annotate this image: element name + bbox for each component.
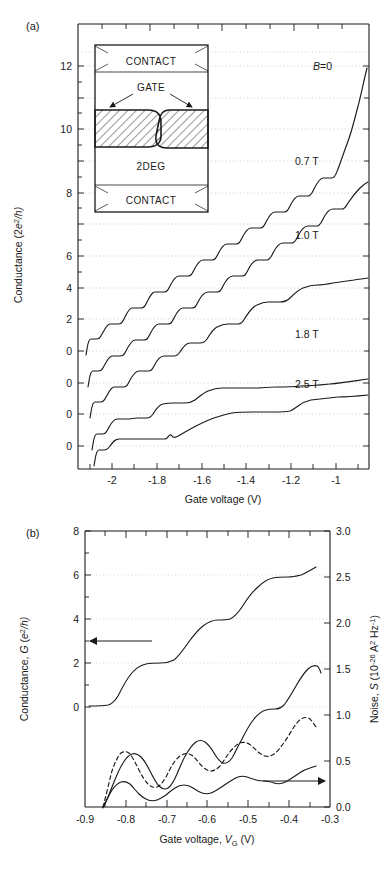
panel-b-rtitle-c: A — [368, 645, 380, 654]
panel-b-left-ticklabels: 8 6 4 2 0 — [73, 525, 79, 713]
panel-b-xtitle-b: (V) — [238, 833, 255, 845]
panel-b-rtick-1-0: 1.0 — [336, 709, 351, 721]
panel-a-ytick-8: 8 — [66, 187, 72, 199]
panel-a-ytick-0b: 0 — [66, 377, 72, 389]
panel-b-ytick-6: 6 — [73, 569, 79, 581]
panel-a-ytick-6: 6 — [66, 250, 72, 262]
panel-a-x-ticklabels: -2 -1.8 -1.6 -1.4 -1.2 -1 — [107, 474, 340, 486]
panel-b-xtick-3: -0.6 — [198, 813, 216, 825]
svg-text:Noise, S (10-26 A2 Hz-1): Noise, S (10-26 A2 Hz-1) — [368, 615, 381, 723]
panel-b-xtick-5: -0.4 — [280, 813, 298, 825]
panel-b-xtick-4: -0.5 — [239, 813, 257, 825]
curve-b-2-5t — [94, 395, 368, 466]
panel-b-rtitle-e: ) — [368, 615, 380, 619]
panel-a-ytick-4: 4 — [66, 282, 72, 294]
panel-b-rtick-1-5: 1.5 — [336, 663, 351, 675]
svg-text:Conductance, G (e2/h): Conductance, G (e2/h) — [18, 617, 31, 722]
curve-label-1-0t: 1.0 T — [295, 229, 319, 241]
panel-b-rtick-0-5: 0.5 — [336, 755, 351, 767]
panel-b-xtick-0: -0.9 — [76, 813, 94, 825]
panel-b-top-ticks — [105, 531, 310, 538]
panel-b-ytick-0: 0 — [73, 701, 79, 713]
svg-text:Conductance (2e2/h): Conductance (2e2/h) — [12, 207, 25, 303]
panel-b-right-ticklabels: 3.0 2.5 2.0 1.5 1.0 0.5 0.0 — [336, 525, 351, 813]
panel-a-ytick-2: 2 — [66, 313, 72, 325]
inset-gate-label: GATE — [137, 82, 165, 93]
panel-a-xtick-3: -1.4 — [237, 474, 255, 486]
panel-b-left-axis-title: Conductance, G (e2/h) — [18, 617, 31, 722]
panel-a-top-ticks — [102, 24, 342, 31]
panel-a-ytick-0d: 0 — [66, 440, 72, 452]
panel-a-chart: (a) — [0, 0, 389, 510]
panel-b-rtick-2-0: 2.0 — [336, 617, 351, 629]
panel-a-curve-labels: B=0 0.7 T 1.0 T 1.8 T 2.5 T — [295, 60, 332, 390]
curve-label-0-7t: 0.7 T — [295, 155, 319, 167]
panel-b-letter: (b) — [26, 527, 39, 539]
panel-a-xtick-5: -1 — [331, 474, 340, 486]
inset-2deg-label: 2DEG — [137, 161, 166, 172]
panel-a-y-ticklabels: 12 10 8 6 4 2 0 0 0 0 — [60, 60, 72, 452]
curve-conductance-lower — [103, 666, 321, 808]
panel-b-rtitle-a: Noise, — [368, 690, 380, 723]
panel-b-rtitle-d: Hz — [368, 625, 380, 641]
panel-b-rtitle-b: (10 — [368, 665, 380, 683]
curve-label-2-5t: 2.5 T — [295, 378, 319, 390]
panel-b-xtitle-a: Gate voltage, — [159, 833, 224, 845]
panel-a-letter: (a) — [26, 20, 39, 32]
panel-b-xtick-1: -0.8 — [117, 813, 135, 825]
panel-b-rtitle-sup3: -1 — [368, 618, 377, 625]
curve-conductance-upper — [89, 567, 316, 706]
panel-a-xtick-1: -1.8 — [148, 474, 166, 486]
panel-b-ytick-4: 4 — [73, 613, 79, 625]
curve-label-b0: B=0 — [313, 60, 332, 72]
panel-a-right-ticks — [363, 66, 369, 446]
panel-b-rtick-3-0: 3.0 — [336, 525, 351, 537]
panel-b-curves — [89, 567, 321, 808]
panel-a-left-ticks — [78, 66, 84, 446]
inset-top-contact-label: CONTACT — [126, 56, 176, 67]
panel-b-ltitle-a: Conductance, — [18, 654, 30, 722]
panel-a-ytitle-tail: /h) — [12, 207, 24, 220]
panel-a-xtick-4: -1.2 — [282, 474, 300, 486]
panel-b-rtick-0-0: 0.0 — [336, 801, 351, 813]
panel-b-bottom-ticks — [105, 800, 310, 807]
panel-b-right-axis-title: Noise, S (10-26 A2 Hz-1) — [368, 615, 381, 723]
inset-bottom-contact-label: CONTACT — [126, 195, 176, 206]
panel-b-chart: (b) — [0, 510, 389, 874]
panel-b-rtitle-s: S — [368, 683, 380, 690]
curve-noise-lower-solid — [103, 766, 316, 807]
panel-a-bottom-ticks — [90, 463, 358, 469]
curve-label-1-8t: 1.8 T — [295, 328, 319, 340]
panel-a-ytick-10: 10 — [60, 123, 72, 135]
panel-b-ytick-8: 8 — [73, 525, 79, 537]
panel-a-ytitle-main: Conductance (2 — [12, 229, 24, 303]
panel-b-rtick-2-5: 2.5 — [336, 571, 351, 583]
panel-b-xtick-2: -0.7 — [158, 813, 176, 825]
panel-a-y-axis-title: Conductance (2e2/h) — [12, 207, 25, 303]
panel-b-rtitle-sup1: -26 — [368, 654, 377, 665]
panel-b-right-ticks — [324, 531, 330, 807]
panel-b-x-ticklabels: -0.9 -0.8 -0.7 -0.6 -0.5 -0.4 -0.3 — [76, 813, 339, 825]
panel-a-x-axis-title: Gate voltage (V) — [185, 493, 261, 505]
panel-b-ltitle-c: /h) — [18, 617, 30, 630]
panel-a-ytick-0c: 0 — [66, 408, 72, 420]
panel-b-ytick-2: 2 — [73, 657, 79, 669]
inset-device-diagram: CONTACT GATE 2DEG CONTACT — [95, 45, 208, 212]
curve-b-1-0t — [90, 278, 368, 418]
panel-b-gridlines — [85, 531, 330, 707]
panel-b-left-ticks — [85, 531, 91, 707]
panel-b-xtick-6: -0.3 — [321, 813, 339, 825]
panel-b-x-axis-title: Gate voltage, VG (V) — [159, 833, 254, 848]
panel-a-ytick-0a: 0 — [66, 345, 72, 357]
panel-a-xtick-0: -2 — [107, 474, 116, 486]
figure-container: (a) — [0, 0, 389, 874]
panel-b-ltitle-g: G — [18, 645, 30, 653]
panel-a-xtick-2: -1.6 — [193, 474, 211, 486]
panel-a-ytick-12: 12 — [60, 60, 72, 72]
